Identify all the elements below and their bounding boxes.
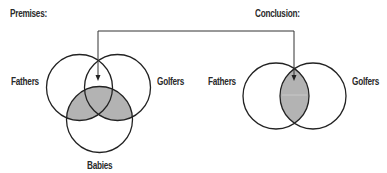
syllogism-venn-diagram: Premises: Conclusion: Fathers Golfers Ba…: [0, 0, 387, 173]
premises-fathers-label: Fathers: [11, 76, 39, 87]
venn-diagrams-svg: [0, 0, 387, 173]
conclusion-golfers-label: Golfers: [352, 76, 379, 87]
conclusion-heading: Conclusion:: [255, 8, 300, 19]
premises-heading: Premises:: [10, 8, 47, 19]
premises-babies-label: Babies: [87, 160, 112, 171]
premises-golfers-label: Golfers: [157, 76, 184, 87]
arrowhead-left-icon: [96, 75, 101, 81]
conclusion-fathers-label: Fathers: [208, 76, 236, 87]
